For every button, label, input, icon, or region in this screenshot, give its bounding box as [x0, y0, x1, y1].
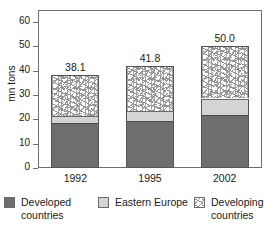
- stacked-bar-chart: mn tons 0102030405060 38.141.850.0 19921…: [0, 0, 277, 230]
- bar-segment: [126, 66, 174, 111]
- y-axis-tick-label: 40: [19, 64, 30, 75]
- y-axis-tick-label: 10: [19, 137, 30, 148]
- bar-segment: [126, 121, 174, 168]
- bar-group: 38.1: [51, 10, 99, 168]
- bar-segment: [51, 75, 99, 115]
- legend-item[interactable]: Eastern Europe: [98, 196, 188, 209]
- y-axis-tick: 30: [0, 95, 38, 96]
- bar-group: 41.8: [126, 10, 174, 168]
- y-axis-tick: 0: [0, 168, 38, 169]
- bar-segment: [201, 115, 249, 168]
- bars-layer: 38.141.850.0: [38, 10, 262, 168]
- chart-legend: DevelopedcountriesEastern EuropeDevelopi…: [4, 196, 277, 228]
- bar-segment: [51, 116, 99, 123]
- legend-item[interactable]: Developingcountries: [194, 196, 264, 222]
- legend-label: Developedcountries: [21, 196, 71, 222]
- y-axis-tick-mark: [33, 168, 38, 169]
- y-axis-tick: 50: [0, 46, 38, 47]
- bar-total-label: 38.1: [65, 61, 85, 73]
- legend-label: Eastern Europe: [115, 196, 188, 209]
- bar-total-label: 41.8: [140, 52, 160, 64]
- y-axis-tick-label: 20: [19, 112, 30, 123]
- y-axis-tick: 40: [0, 71, 38, 72]
- bar-total-label: 50.0: [214, 32, 234, 44]
- y-axis-tick: 20: [0, 119, 38, 120]
- legend-label: Developingcountries: [211, 196, 264, 222]
- y-axis-tick-label: 0: [24, 161, 30, 172]
- light-gray-swatch-icon: [98, 197, 109, 208]
- speckled-swatch-icon: [194, 197, 205, 208]
- bar-segment: [201, 46, 249, 98]
- y-axis-tick-label: 30: [19, 88, 30, 99]
- bar-group: 50.0: [201, 10, 249, 168]
- bar-segment: [51, 123, 99, 168]
- bar-segment: [126, 111, 174, 120]
- legend-item[interactable]: Developedcountries: [4, 196, 71, 222]
- x-axis-label: 1992: [51, 172, 99, 184]
- x-axis-label: 2002: [201, 172, 249, 184]
- dark-gray-swatch-icon: [4, 197, 15, 208]
- y-axis-tick-label: 60: [19, 15, 30, 26]
- bar-segment: [201, 99, 249, 115]
- y-axis-title: mn tons: [6, 56, 17, 112]
- y-axis-tick: 60: [0, 22, 38, 23]
- y-axis-tick-label: 50: [19, 39, 30, 50]
- y-axis-tick: 10: [0, 144, 38, 145]
- x-axis-label: 1995: [126, 172, 174, 184]
